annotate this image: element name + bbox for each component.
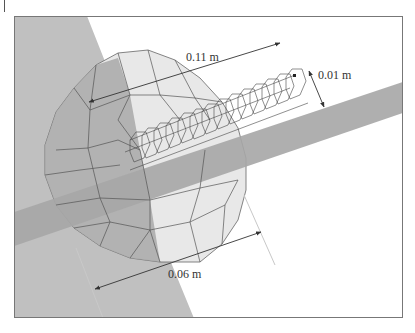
fem-mesh-figure: 0.11 m 0.01 m 0.06 m [0, 0, 415, 333]
corner-tick-mark [4, 0, 5, 12]
label-coil-diameter: 0.01 m [318, 68, 352, 82]
label-length: 0.11 m [186, 50, 220, 64]
label-disk-diameter: 0.06 m [168, 267, 202, 281]
extension-line-right [244, 195, 275, 265]
diagram-canvas: 0.11 m 0.01 m 0.06 m [0, 0, 415, 333]
